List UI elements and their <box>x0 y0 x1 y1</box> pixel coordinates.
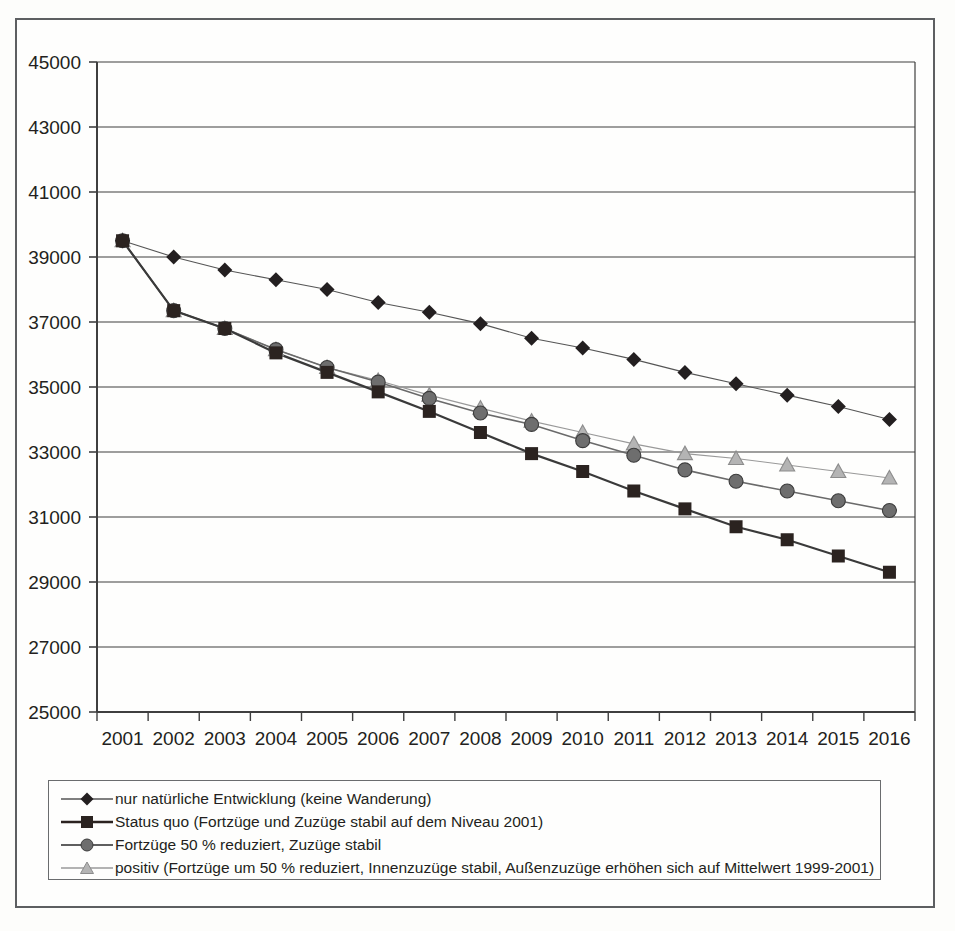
svg-text:39000: 39000 <box>28 247 81 268</box>
svg-text:2013: 2013 <box>715 728 757 749</box>
data-point-square <box>218 322 231 335</box>
svg-text:2012: 2012 <box>664 728 706 749</box>
legend-item-reduced: Fortzüge 50 % reduziert, Zuzüge stabil <box>49 833 880 856</box>
data-point-circle <box>525 417 539 431</box>
legend-item-positive: positiv (Fortzüge um 50 % reduziert, Inn… <box>49 856 880 879</box>
data-point-square <box>167 304 180 317</box>
legend-item-natural: nur natürliche Entwicklung (keine Wander… <box>49 787 880 810</box>
legend-label-status-quo: Status quo (Fortzüge und Zuzüge stabil a… <box>115 812 543 832</box>
svg-text:35000: 35000 <box>28 377 81 398</box>
data-point-diamond <box>268 272 283 287</box>
data-point-square <box>321 366 334 379</box>
svg-text:2004: 2004 <box>255 728 298 749</box>
data-point-circle <box>422 391 436 405</box>
data-point-diamond <box>524 331 539 346</box>
svg-text:2015: 2015 <box>817 728 859 749</box>
svg-text:25000: 25000 <box>28 702 81 723</box>
chart-page: 2500027000290003100033000350003700039000… <box>0 0 955 931</box>
data-point-diamond <box>831 399 846 414</box>
data-point-square <box>269 346 282 359</box>
legend-label-natural: nur natürliche Entwicklung (keine Wander… <box>115 789 431 809</box>
svg-text:2003: 2003 <box>204 728 246 749</box>
data-point-circle <box>780 484 794 498</box>
legend-label-reduced: Fortzüge 50 % reduziert, Zuzüge stabil <box>115 835 381 855</box>
data-point-diamond <box>320 282 335 297</box>
svg-text:2001: 2001 <box>101 728 143 749</box>
data-point-circle <box>678 463 692 477</box>
data-point-circle <box>576 434 590 448</box>
data-point-square <box>627 485 640 498</box>
data-point-diamond <box>882 412 897 427</box>
data-point-square <box>730 520 743 533</box>
svg-text:45000: 45000 <box>28 52 81 73</box>
data-point-diamond <box>729 376 744 391</box>
series-lines-group <box>123 241 890 573</box>
data-point-circle <box>882 504 896 518</box>
x-axis-ticks <box>97 712 915 721</box>
data-point-square <box>372 385 385 398</box>
svg-text:2016: 2016 <box>868 728 910 749</box>
data-point-diamond <box>780 388 795 403</box>
svg-text:2006: 2006 <box>357 728 399 749</box>
data-point-circle <box>627 448 641 462</box>
data-point-square <box>781 533 794 546</box>
data-point-diamond <box>371 295 386 310</box>
svg-text:2005: 2005 <box>306 728 348 749</box>
triangle-marker-icon <box>59 858 115 878</box>
data-point-square <box>576 465 589 478</box>
data-point-diamond <box>677 365 692 380</box>
data-point-circle <box>473 406 487 420</box>
svg-text:41000: 41000 <box>28 182 81 203</box>
svg-text:2007: 2007 <box>408 728 450 749</box>
chart-legend: nur natürliche Entwicklung (keine Wander… <box>48 780 881 880</box>
data-point-square <box>116 234 129 247</box>
svg-text:2009: 2009 <box>510 728 552 749</box>
svg-text:29000: 29000 <box>28 572 81 593</box>
data-point-circle <box>831 494 845 508</box>
svg-text:2014: 2014 <box>766 728 809 749</box>
data-point-diamond <box>422 305 437 320</box>
data-point-square <box>474 426 487 439</box>
square-marker-icon <box>59 812 115 832</box>
svg-text:2008: 2008 <box>459 728 501 749</box>
legend-item-status-quo: Status quo (Fortzüge und Zuzüge stabil a… <box>49 810 880 833</box>
legend-label-positive: positiv (Fortzüge um 50 % reduziert, Inn… <box>115 858 874 878</box>
svg-text:27000: 27000 <box>28 637 81 658</box>
y-axis-labels: 2500027000290003100033000350003700039000… <box>28 52 81 723</box>
data-point-diamond <box>473 316 488 331</box>
data-point-square <box>678 502 691 515</box>
svg-text:31000: 31000 <box>28 507 81 528</box>
data-point-diamond <box>166 250 181 265</box>
series-markers-group <box>115 233 897 579</box>
y-axis-ticks <box>89 62 97 712</box>
data-point-diamond <box>626 352 641 367</box>
data-point-diamond <box>575 341 590 356</box>
data-point-square <box>883 566 896 579</box>
data-point-circle <box>729 474 743 488</box>
data-point-square <box>832 550 845 563</box>
svg-text:37000: 37000 <box>28 312 81 333</box>
x-axis-labels: 2001200220032004200520062007200820092010… <box>101 728 910 749</box>
svg-text:2010: 2010 <box>562 728 604 749</box>
svg-text:2011: 2011 <box>613 728 654 749</box>
gridlines-group <box>97 62 915 712</box>
svg-text:2002: 2002 <box>153 728 195 749</box>
svg-text:43000: 43000 <box>28 117 81 138</box>
circle-marker-icon <box>59 835 115 855</box>
svg-text:33000: 33000 <box>28 442 81 463</box>
diamond-marker-icon <box>59 789 115 809</box>
data-point-square <box>525 447 538 460</box>
data-point-square <box>423 405 436 418</box>
data-point-diamond <box>217 263 232 278</box>
